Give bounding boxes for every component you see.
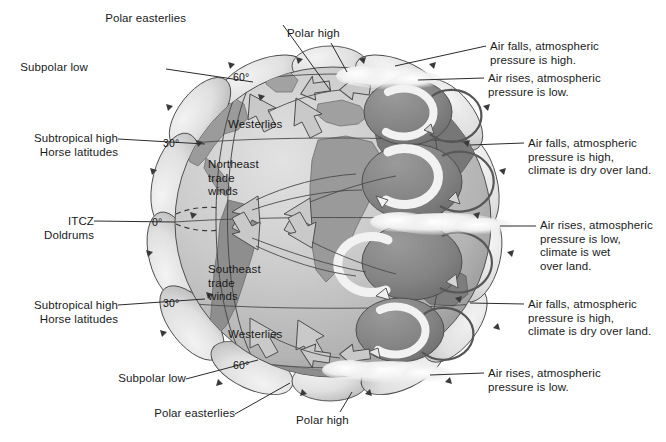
callout-air-rises-subpolar-north: Air rises, atmospheric pressure is low. — [488, 72, 601, 99]
leader-air-falls-polar-north — [395, 46, 486, 66]
leader-polar-easterlies-bottom — [235, 383, 290, 414]
leader-subtropical-high-north — [118, 139, 205, 144]
leader-itcz — [94, 221, 175, 222]
label-westerlies-south: Westerlies — [228, 328, 282, 342]
callout-subtropical-high-north: Subtropical high Horse latitudes — [34, 132, 118, 159]
latitude-label-60s: 60° — [233, 359, 249, 371]
latitude-label-0: 0° — [152, 216, 162, 228]
leader-air-rises-subpolar-north — [418, 78, 484, 80]
callout-polar-high-bottom: Polar high — [296, 414, 349, 428]
callout-air-rises-equator: Air rises, atmospheric pressure is low, … — [540, 219, 653, 273]
leader-air-rises-subpolar-south — [430, 373, 484, 375]
callout-air-falls-subtropical-north: Air falls, atmospheric pressure is high,… — [528, 137, 651, 178]
callout-polar-easterlies-bottom: Polar easterlies — [154, 407, 235, 421]
callout-air-falls-polar-north: Air falls, atmospheric pressure is high. — [490, 40, 599, 67]
latitude-label-30n: 30° — [163, 137, 179, 149]
label-northeast-trade-winds: Northeast trade winds — [208, 158, 259, 199]
callout-subtropical-high-south: Subtropical high Horse latitudes — [34, 299, 118, 326]
label-westerlies-north: Westerlies — [228, 118, 282, 132]
callout-polar-easterlies-top: Polar easterlies — [105, 12, 186, 26]
callout-air-falls-subtropical-south: Air falls, atmospheric pressure is high,… — [528, 298, 651, 339]
callout-polar-high-top: Polar high — [287, 27, 340, 41]
leader-polar-high-bottom — [340, 392, 352, 412]
callout-subpolar-low-top: Subpolar low — [20, 61, 88, 75]
callout-itcz-doldrums: ITCZ Doldrums — [44, 215, 94, 242]
callout-subpolar-low-bottom: Subpolar low — [118, 372, 186, 386]
latitude-label-60n: 60° — [233, 71, 249, 83]
latitude-label-30s: 30° — [163, 297, 179, 309]
leader-air-falls-subtropical-south — [470, 303, 524, 304]
leader-subtropical-high-south — [118, 299, 205, 305]
label-southeast-trade-winds: Southeast trade winds — [208, 263, 261, 304]
callout-air-rises-subpolar-south: Air rises, atmospheric pressure is low. — [488, 367, 601, 394]
circulation-diagram-figure: 60° 30° 0° 30° 60° Westerlies Northeast … — [0, 0, 666, 442]
leader-air-falls-subtropical-north — [470, 143, 524, 145]
leader-polar-high-top — [331, 43, 347, 72]
